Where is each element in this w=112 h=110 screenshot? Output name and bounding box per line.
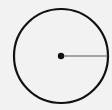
center-point <box>58 53 64 59</box>
circle-diagram <box>0 0 112 110</box>
background <box>0 0 112 110</box>
